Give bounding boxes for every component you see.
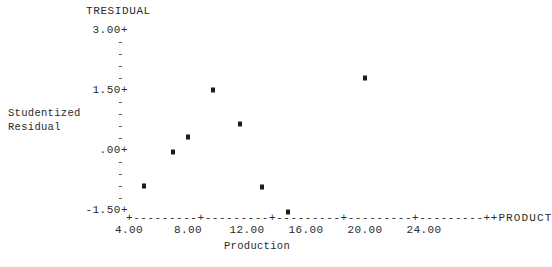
data-point <box>171 150 175 155</box>
data-point <box>142 184 146 189</box>
data-point <box>286 210 290 215</box>
data-point <box>186 134 190 139</box>
data-point <box>260 185 264 190</box>
data-point <box>238 122 242 127</box>
data-point <box>211 88 215 93</box>
x-axis-variable-label: +PRODUCT <box>491 212 552 224</box>
data-point <box>363 76 367 81</box>
